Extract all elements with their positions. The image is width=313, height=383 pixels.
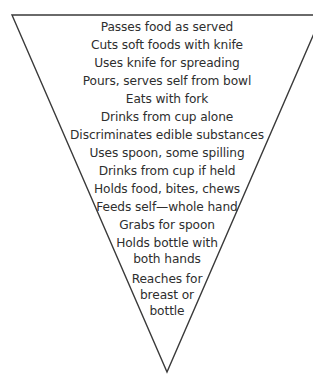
stage-label-cuts-soft-foods: Cuts soft foods with knife [0, 38, 313, 53]
stage-label-uses-knife-spreading: Uses knife for spreading [0, 56, 313, 71]
stage-label-uses-spoon-spilling: Uses spoon, some spilling [0, 146, 313, 161]
stage-label-eats-with-fork: Eats with fork [0, 92, 313, 107]
feeding-development-inverted-pyramid: Passes food as served Cuts soft foods wi… [0, 0, 313, 383]
stage-label-feeds-self-whole-hand: Feeds self—whole hand [0, 200, 313, 215]
stage-label-discriminates-edible: Discriminates edible substances [0, 128, 313, 143]
stage-label-drinks-cup-if-held: Drinks from cup if held [0, 164, 313, 179]
stage-label-reaches-line1: Reaches for [0, 272, 313, 287]
stage-label-passes-food: Passes food as served [0, 20, 313, 35]
stage-label-reaches-line3: bottle [0, 304, 313, 319]
stage-label-reaches-line2: breast or [0, 288, 313, 303]
stage-label-holds-food-bites: Holds food, bites, chews [0, 182, 313, 197]
stage-label-grabs-for-spoon: Grabs for spoon [0, 218, 313, 233]
stage-label-holds-bottle-line2: both hands [0, 252, 313, 267]
stage-label-holds-bottle-line1: Holds bottle with [0, 236, 313, 251]
stage-label-pours-serves-self: Pours, serves self from bowl [0, 74, 313, 89]
stage-label-drinks-cup-alone: Drinks from cup alone [0, 110, 313, 125]
